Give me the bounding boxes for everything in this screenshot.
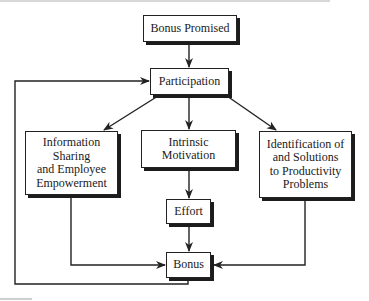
node-label-line: Identification of [267,138,345,152]
node-identification: Identification of and Solutions to Produ… [259,131,352,198]
node-label-line: and Solutions [267,151,345,165]
node-label-line: Intrinsic [162,136,215,150]
node-label: Participation [159,75,220,89]
node-label: Bonus [173,258,204,272]
node-label-line: Information [36,136,107,150]
node-label-line: and Employee [36,163,107,177]
node-effort: Effort [166,199,211,224]
node-label-line: Empowerment [36,177,107,191]
node-participation: Participation [150,68,229,95]
node-bonus-promised: Bonus Promised [143,15,237,42]
node-bonus: Bonus [166,252,211,278]
node-label: Bonus Promised [150,22,229,36]
cropped-footer-bar [0,298,32,300]
node-label-line: to Productivity [267,165,345,179]
node-label: Effort [174,205,202,219]
node-label-line: Problems [267,178,345,192]
node-label-line: Sharing [36,150,107,164]
node-label-line: Motivation [162,149,215,163]
node-intrinsic-motivation: Intrinsic Motivation [141,130,236,168]
node-information-sharing: Information Sharing and Employee Empower… [25,131,118,195]
